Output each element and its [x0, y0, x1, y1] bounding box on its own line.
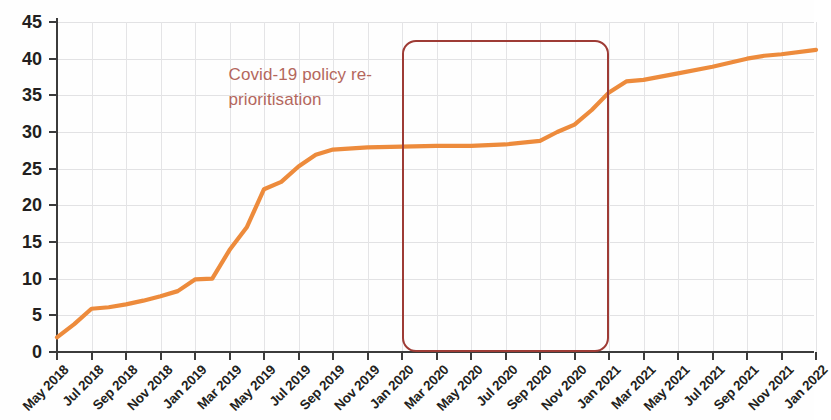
annotation-covid-policy-reprioritisation: Covid-19 policy re- prioritisation	[229, 63, 373, 112]
highlight-region-covid-period	[402, 40, 609, 352]
x-tick-mark	[815, 352, 817, 360]
gridline-vertical	[816, 22, 817, 352]
